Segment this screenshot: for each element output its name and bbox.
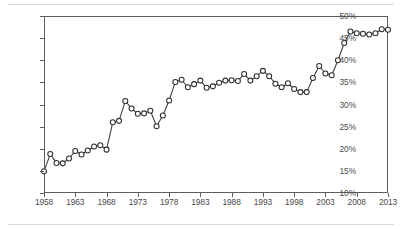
y-tick-label: 50% xyxy=(340,11,356,21)
data-point-marker xyxy=(167,98,172,103)
data-point-marker xyxy=(85,148,90,153)
y-tick-label: 30% xyxy=(340,100,356,110)
top-divider-rule xyxy=(8,4,394,5)
data-point-marker xyxy=(242,71,247,76)
x-tick-label: 1998 xyxy=(285,197,303,207)
x-tick-mark xyxy=(232,193,233,197)
y-tick-mark xyxy=(40,127,44,128)
y-tick-mark xyxy=(40,105,44,106)
data-point-marker xyxy=(323,71,328,76)
x-tick-mark xyxy=(169,193,170,197)
y-tick-label: 25% xyxy=(340,122,356,132)
series-markers xyxy=(42,27,391,174)
data-point-marker xyxy=(142,111,147,116)
y-tick-label: 20% xyxy=(340,144,356,154)
data-point-marker xyxy=(292,87,297,92)
data-point-marker xyxy=(298,90,303,95)
data-point-marker xyxy=(248,78,253,83)
bottom-divider-rule xyxy=(8,224,394,225)
x-tick-label: 1978 xyxy=(160,197,178,207)
data-point-marker xyxy=(254,74,259,79)
data-point-marker xyxy=(192,82,197,87)
data-point-marker xyxy=(217,80,222,85)
data-point-marker xyxy=(210,84,215,89)
y-tick-mark xyxy=(40,171,44,172)
x-tick-mark xyxy=(325,193,326,197)
x-tick-label: 1993 xyxy=(254,197,272,207)
data-point-marker xyxy=(223,78,228,83)
data-point-marker xyxy=(379,27,384,32)
x-tick-mark xyxy=(138,193,139,197)
data-point-marker xyxy=(48,152,53,157)
data-point-marker xyxy=(179,77,184,82)
plot-area xyxy=(44,16,388,193)
x-tick-label: 2003 xyxy=(316,197,334,207)
x-tick-mark xyxy=(44,193,45,197)
data-point-marker xyxy=(73,148,78,153)
data-point-marker xyxy=(317,64,322,69)
y-tick-mark xyxy=(40,60,44,61)
data-point-marker xyxy=(98,143,103,148)
data-point-marker xyxy=(110,120,115,125)
y-tick-mark xyxy=(40,82,44,83)
y-tick-mark xyxy=(40,149,44,150)
x-tick-label: 1958 xyxy=(35,197,53,207)
x-tick-label: 1963 xyxy=(66,197,84,207)
data-point-marker xyxy=(198,78,203,83)
data-point-marker xyxy=(148,108,153,113)
data-point-marker xyxy=(273,81,278,86)
data-point-marker xyxy=(60,161,65,166)
data-point-marker xyxy=(304,90,309,95)
data-point-marker xyxy=(373,31,378,36)
x-tick-mark xyxy=(294,193,295,197)
data-point-marker xyxy=(285,81,290,86)
series-line xyxy=(44,29,388,171)
x-tick-label: 2013 xyxy=(379,197,397,207)
data-point-marker xyxy=(104,147,109,152)
data-point-marker xyxy=(117,118,122,123)
data-point-marker xyxy=(92,144,97,149)
data-point-marker xyxy=(360,31,365,36)
data-point-marker xyxy=(173,79,178,84)
data-point-marker xyxy=(204,85,209,90)
x-tick-mark xyxy=(263,193,264,197)
y-tick-label: 15% xyxy=(340,166,356,176)
data-point-marker xyxy=(160,113,165,118)
y-tick-mark xyxy=(40,38,44,39)
y-tick-mark xyxy=(40,16,44,17)
x-tick-mark xyxy=(107,193,108,197)
y-tick-label: 45% xyxy=(340,33,356,43)
x-tick-label: 2008 xyxy=(348,197,366,207)
x-tick-label: 1973 xyxy=(129,197,147,207)
x-tick-mark xyxy=(357,193,358,197)
y-tick-label: 40% xyxy=(340,55,356,65)
y-tick-label: 35% xyxy=(340,77,356,87)
x-tick-label: 1988 xyxy=(223,197,241,207)
data-point-marker xyxy=(129,106,134,111)
chart-figure: 10%15%20%25%30%35%40%45%50% 195819631968… xyxy=(0,0,402,229)
x-tick-label: 1983 xyxy=(191,197,209,207)
data-point-marker xyxy=(386,27,391,32)
x-tick-mark xyxy=(388,193,389,197)
data-point-marker xyxy=(79,152,84,157)
data-point-marker xyxy=(185,85,190,90)
data-point-marker xyxy=(310,75,315,80)
x-tick-mark xyxy=(75,193,76,197)
data-point-marker xyxy=(367,32,372,37)
data-point-marker xyxy=(67,156,72,161)
data-point-marker xyxy=(267,74,272,79)
data-point-marker xyxy=(54,160,59,165)
x-tick-label: 1968 xyxy=(97,197,115,207)
data-point-marker xyxy=(135,111,140,116)
data-point-marker xyxy=(260,68,265,73)
data-point-marker xyxy=(279,85,284,90)
data-point-marker xyxy=(235,79,240,84)
data-point-marker xyxy=(329,73,334,78)
x-tick-mark xyxy=(200,193,201,197)
data-point-marker xyxy=(154,124,159,129)
data-point-marker xyxy=(229,78,234,83)
data-series xyxy=(44,16,388,193)
data-point-marker xyxy=(123,98,128,103)
